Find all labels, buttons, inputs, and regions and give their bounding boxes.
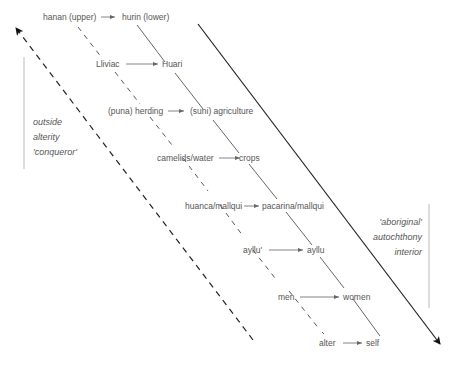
pair-right-label: Huari (162, 59, 182, 69)
right-side-label: autochthony (373, 230, 422, 245)
outer-solid-arrow (198, 24, 440, 344)
pair-right-label: ayllu (307, 245, 324, 255)
left-side-label: 'conqueror' (33, 145, 77, 160)
pair-right-label: (suni) agriculture (190, 106, 253, 116)
right-side-label: 'aboriginal' (373, 215, 422, 230)
pair-left-label: alter (319, 338, 336, 348)
left-side-labels: outside alterity 'conqueror' (33, 115, 77, 160)
pair-right-label: pacarina/mallqui (262, 201, 324, 211)
pair-left-label: Lliviac (96, 59, 120, 69)
inner-dashed-line (78, 27, 324, 334)
inner-solid-line (137, 25, 380, 336)
right-side-label: interior (373, 245, 422, 260)
pair-left-label: (puna) herding (108, 106, 163, 116)
right-side-labels: 'aboriginal' autochthony interior (373, 215, 422, 260)
pair-left-label: hanan (upper) (43, 12, 96, 22)
diagram-lines (0, 0, 451, 365)
pair-right-label: crops (239, 153, 260, 163)
pair-right-label: self (366, 338, 379, 348)
pair-right-label: women (343, 292, 370, 302)
outer-dashed-arrow (16, 28, 253, 340)
pair-left-label: huanca/mallqui (185, 201, 242, 211)
left-side-label: outside (33, 115, 77, 130)
pair-right-label: hurin (lower) (122, 12, 169, 22)
pair-left-label: men (278, 292, 295, 302)
left-side-label: alterity (33, 130, 77, 145)
pair-left-label: ayllu' (243, 245, 262, 255)
pair-arrows (101, 17, 362, 343)
pair-left-label: camelids/water (157, 153, 214, 163)
